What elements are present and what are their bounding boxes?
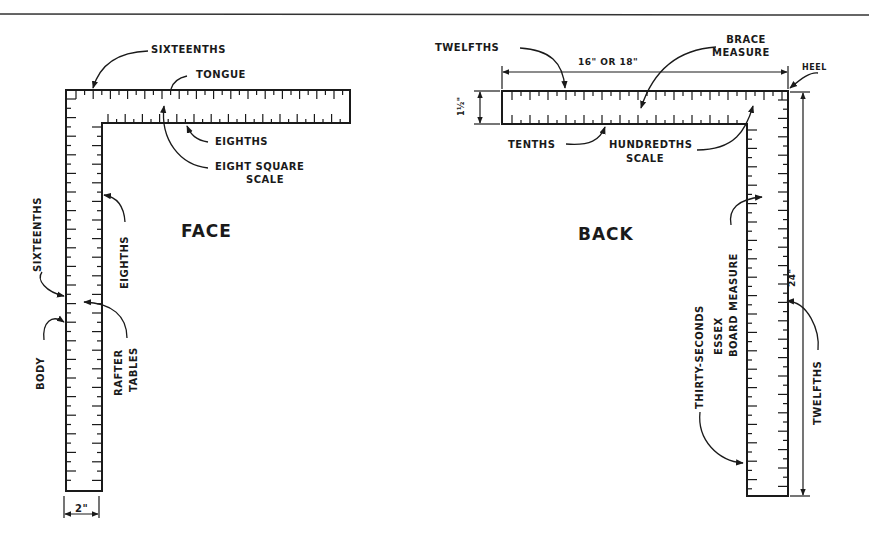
back-label-thirty-seconds: THIRTY-SECONDS [695,305,705,409]
face-label-sixteenths-body: SIXTEENTHS [33,197,43,272]
back-body-right-ticks [778,100,788,486]
face-body-outer-ticks [66,99,76,480]
back-label-brace-2: MEASURE [712,48,770,58]
face-title: FACE [181,223,232,240]
face-label-eighths-body: EIGHTHS [120,236,130,289]
face-label-rafter: RAFTER [114,349,124,396]
back-label-tenths: TENTHS [508,140,555,150]
face-label-eighths-tongue: EIGHTHS [215,137,268,147]
face-label-tables: TABLES [129,347,139,392]
back-body-left-ticks [747,130,757,489]
back-title: BACK [578,226,634,243]
back-label-twelfths-top: TWELFTHS [435,43,499,53]
face-label-width: 2" [75,504,88,514]
back-label-twelfths-body: TWELFTHS [813,361,823,425]
back-label-hundredths-1: HUNDREDTHS [609,140,692,150]
back-tongue-bottom-ticks [512,115,737,124]
back-label-tongue-length: 16" OR 18" [578,58,638,67]
back-label-tongue-width: 1½" [458,96,466,116]
back-label-brace-1: BRACE [723,35,769,45]
back-body-length-dimension [790,92,810,496]
back-tongue-width-dimension [474,91,500,124]
back-leaders [520,47,818,463]
face-label-tongue: TONGUE [196,70,246,80]
back-label-board-measure: BOARD MEASURE [729,253,739,357]
back-label-heel: HEEL [802,64,827,72]
back-square [502,91,788,496]
face-tongue-bottom-ticks [108,114,340,123]
face-label-eight-square-1: EIGHT SQUARE [215,162,304,172]
face-square [66,90,350,491]
back-label-hundredths-2: SCALE [626,154,664,164]
back-label-body-length: 24" [788,268,797,287]
face-label-sixteenths-top: SIXTEENTHS [151,45,226,55]
back-tongue-length-dimension [502,66,788,89]
face-tongue-top-ticks [76,90,343,99]
page-top-rule [0,14,869,15]
back-label-essex: ESSEX [714,317,724,355]
face-label-eight-square-2: SCALE [246,175,284,185]
face-label-body: BODY [36,357,46,390]
